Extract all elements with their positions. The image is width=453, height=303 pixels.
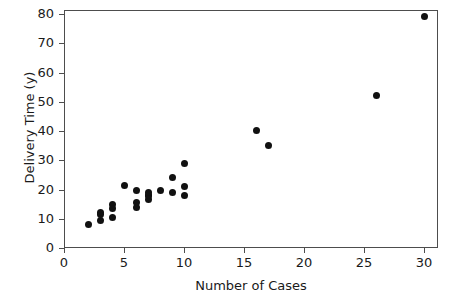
- x-tick-label: 30: [404, 255, 444, 270]
- data-point: [169, 189, 176, 196]
- x-tick: [424, 248, 425, 253]
- y-tick-label: 10: [16, 211, 54, 226]
- y-tick: [59, 43, 64, 44]
- data-point: [169, 174, 176, 181]
- y-tick: [59, 219, 64, 220]
- x-tick: [304, 248, 305, 253]
- x-axis-title: Number of Cases: [64, 278, 438, 293]
- data-point: [109, 214, 116, 221]
- y-tick: [59, 14, 64, 15]
- data-point: [97, 217, 104, 224]
- y-tick: [59, 160, 64, 161]
- x-tick-label: 15: [224, 255, 264, 270]
- data-point: [97, 209, 104, 216]
- x-tick: [64, 248, 65, 253]
- x-tick: [124, 248, 125, 253]
- x-tick-label: 10: [164, 255, 204, 270]
- scatter-plot-figure: 051015202530 01020304050607080 Number of…: [0, 0, 453, 303]
- y-tick: [59, 73, 64, 74]
- x-tick-label: 5: [104, 255, 144, 270]
- data-point: [181, 160, 188, 167]
- data-point: [265, 142, 272, 149]
- data-point: [109, 205, 116, 212]
- data-point: [253, 127, 260, 134]
- x-tick: [184, 248, 185, 253]
- y-tick: [59, 248, 64, 249]
- x-tick-label: 25: [344, 255, 384, 270]
- y-tick-label: 80: [16, 6, 54, 21]
- data-point: [181, 192, 188, 199]
- data-point: [121, 182, 128, 189]
- data-point: [181, 183, 188, 190]
- y-tick: [59, 131, 64, 132]
- y-tick: [59, 102, 64, 103]
- x-tick: [364, 248, 365, 253]
- data-point: [157, 187, 164, 194]
- x-tick-label: 0: [44, 255, 84, 270]
- data-point: [133, 199, 140, 206]
- data-point: [133, 187, 140, 194]
- x-tick-label: 20: [284, 255, 324, 270]
- plot-area: [64, 10, 438, 248]
- y-tick-label: 0: [16, 240, 54, 255]
- data-point: [421, 13, 428, 20]
- y-tick: [59, 190, 64, 191]
- data-point: [145, 189, 152, 196]
- data-point: [373, 92, 380, 99]
- x-tick: [244, 248, 245, 253]
- data-point: [85, 221, 92, 228]
- y-axis-title: Delivery Time (y): [22, 43, 37, 213]
